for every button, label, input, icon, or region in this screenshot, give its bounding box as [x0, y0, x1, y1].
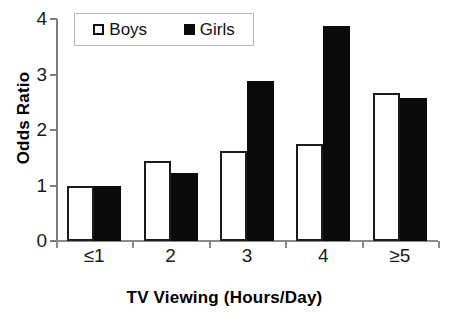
x-tick-mark: [209, 241, 211, 248]
bar-boys-3: [296, 144, 323, 241]
bar-chart-figure: Odds Ratio 01234 ≤1234≥5 TV Viewing (Hou…: [0, 0, 449, 324]
y-tick-label: 3: [36, 65, 47, 84]
y-tick-mark: [50, 18, 57, 20]
bar-girls-1: [171, 173, 198, 241]
y-tick-mark: [50, 185, 57, 187]
x-tick-mark: [56, 241, 58, 248]
bar-boys-2: [220, 151, 247, 241]
x-tick-label: 4: [318, 246, 329, 265]
legend-label-girls: Girls: [200, 21, 235, 38]
bar-girls-3: [323, 26, 350, 241]
bar-boys-4: [373, 93, 400, 241]
y-tick-mark: [50, 129, 57, 131]
y-tick-label: 2: [36, 120, 47, 139]
x-tick-label: 2: [165, 246, 176, 265]
bar-girls-2: [247, 81, 274, 241]
plot-area: 01234: [56, 19, 438, 241]
y-tick-label: 4: [36, 9, 47, 28]
x-tick-mark: [132, 241, 134, 248]
chart-legend: Boys Girls: [74, 13, 254, 46]
y-tick-mark: [50, 74, 57, 76]
x-tick-label: ≥5: [389, 246, 410, 265]
y-tick-label: 1: [36, 176, 47, 195]
x-tick-label: 3: [242, 246, 253, 265]
bar-girls-4: [400, 98, 427, 241]
bar-boys-0: [67, 186, 94, 242]
filled-square-icon: [184, 24, 195, 35]
x-tick-label: ≤1: [84, 246, 105, 265]
bar-girls-0: [94, 186, 121, 242]
y-axis-title: Odds Ratio: [14, 48, 34, 188]
x-axis-title: TV Viewing (Hours/Day): [0, 288, 449, 308]
x-tick-mark: [362, 241, 364, 248]
legend-entry-girls: Girls: [184, 21, 235, 38]
open-square-icon: [93, 24, 104, 35]
x-tick-mark: [285, 241, 287, 248]
legend-label-boys: Boys: [109, 21, 147, 38]
legend-entry-boys: Boys: [93, 21, 147, 38]
y-tick-label: 0: [36, 231, 47, 250]
bar-boys-1: [144, 161, 171, 241]
x-tick-mark: [438, 241, 440, 248]
